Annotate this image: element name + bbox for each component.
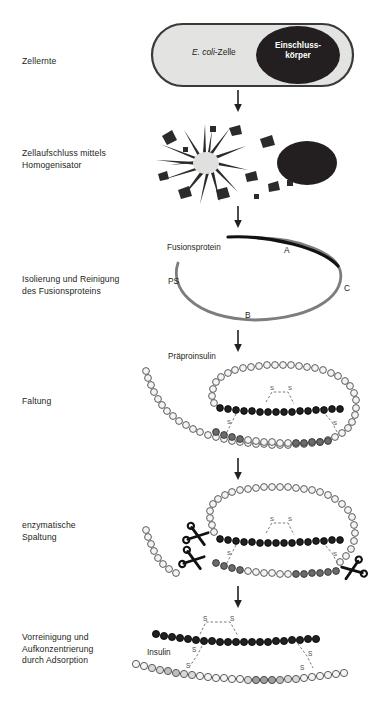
chain-a-dark-cleavage xyxy=(217,536,344,547)
stage-label-folding: Faltung xyxy=(22,396,51,408)
disulfide-label-s4: S xyxy=(333,420,337,426)
loop-letter-b: B xyxy=(245,310,251,320)
arrow-folding-to-cleavage xyxy=(232,458,244,480)
chain-b-run-cleavage xyxy=(213,560,340,578)
fusion-protein-label: Fusionsprotein xyxy=(167,243,221,252)
disulfide-label-c2: S xyxy=(288,516,292,522)
insulin-disulfide-s2: S xyxy=(230,615,235,622)
insulin-disulfide-s3: S xyxy=(192,646,197,653)
insulin-disulfide-s6: S xyxy=(300,664,305,671)
stage-label-isolation: Isolierung und Reinigung des Fusionsprot… xyxy=(22,274,119,297)
chain-a-dark xyxy=(217,405,344,416)
stage-label-harvest: Zellernte xyxy=(22,56,56,68)
figure-cell-lysis-burst xyxy=(150,118,355,208)
stage-label-cleavage: enzymatische Spaltung xyxy=(22,520,76,543)
figure-preproinsulin-folded: S S S S xyxy=(120,356,370,458)
insulin-chain-b xyxy=(132,660,347,683)
arrow-harvest-to-disruption xyxy=(232,90,244,112)
disulfide-label-c1: S xyxy=(270,516,274,522)
insulin-disulfide-s4: S xyxy=(186,662,191,669)
insulin-disulfide-s1: S xyxy=(203,615,208,622)
chain-tail-cleavage xyxy=(143,527,180,577)
arrow-disruption-to-isolation xyxy=(232,206,244,228)
insulin-label: Insulin xyxy=(147,648,171,657)
insulin-disulfide-s5: S xyxy=(308,650,313,657)
scissors-icon-1 xyxy=(182,522,209,549)
inclusion-body-label: Einschluss- körper xyxy=(267,41,329,61)
ecoli-cell-suffix: -Zelle xyxy=(215,47,236,57)
chain-tail xyxy=(143,368,204,436)
figure-enzymatic-cleavage: S S S S xyxy=(120,478,370,586)
disulfide-label-c3: S xyxy=(227,550,231,556)
scissors-icon-3 xyxy=(340,556,368,583)
ecoli-cell-label: E. coli-Zelle xyxy=(192,47,236,57)
disulfide-label-s3: S xyxy=(227,419,231,425)
stage-label-disruption: Zellaufschluss mittels Homogenisator xyxy=(22,148,106,171)
loop-letter-c: C xyxy=(344,283,350,293)
loop-letter-a: A xyxy=(284,245,290,255)
stage-label-adsorption: Vorreinigung und Aufkonzentrierung durch… xyxy=(22,632,93,667)
disulfide-label-s1: S xyxy=(270,385,274,391)
loop-letter-ps: PS xyxy=(168,276,179,286)
arrow-isolation-to-folding xyxy=(232,330,244,352)
arrow-cleavage-to-adsorption xyxy=(232,586,244,608)
intact-inclusion-body-shape xyxy=(277,141,337,185)
preproinsulin-label: Präproinsulin xyxy=(168,352,216,361)
ecoli-species-name: E. coli xyxy=(192,47,215,57)
disulfide-label-c4: S xyxy=(333,551,337,557)
scissors-icon-2 xyxy=(178,546,205,573)
disulfide-label-s2: S xyxy=(288,385,292,391)
